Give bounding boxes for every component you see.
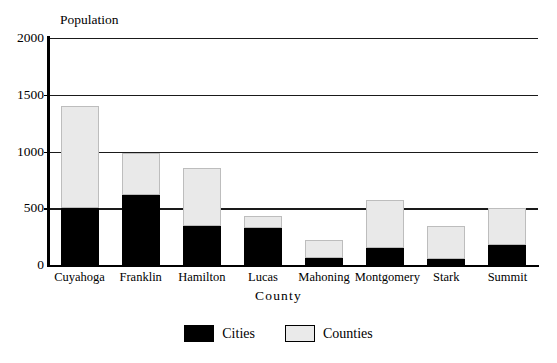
chart-legend: CitiesCounties: [0, 325, 557, 342]
bar-segment-cities[interactable]: [61, 208, 99, 265]
chart-title: [0, 0, 557, 2]
legend-label: Counties: [323, 326, 373, 342]
bar-group[interactable]: [427, 38, 465, 265]
x-axis-title: County: [0, 288, 557, 304]
y-axis-tick-label: 1000: [0, 145, 44, 158]
x-axis-tick-label: Montgomery: [355, 270, 416, 284]
legend-swatch-cities: [184, 325, 214, 342]
bar-segment-counties[interactable]: [488, 208, 526, 245]
y-axis-tick-label: 2000: [0, 31, 44, 44]
x-axis-tick-label: Stark: [416, 270, 477, 284]
bar-segment-cities[interactable]: [305, 258, 343, 265]
y-axis-title: Population: [60, 13, 119, 27]
bar-segment-counties[interactable]: [61, 106, 99, 208]
x-axis-tick-label: Cuyahoga: [49, 270, 110, 284]
y-axis-tick-label: 1500: [0, 88, 44, 101]
x-axis-tick-label: Summit: [477, 270, 538, 284]
legend-swatch-counties: [285, 325, 315, 342]
bar-group[interactable]: [488, 38, 526, 265]
plot-area: [49, 38, 538, 265]
bar-segment-cities[interactable]: [366, 248, 404, 265]
bar-group[interactable]: [366, 38, 404, 265]
bar-segment-counties[interactable]: [122, 153, 160, 194]
bar-segment-cities[interactable]: [244, 228, 282, 265]
x-axis-tick-label: Lucas: [232, 270, 293, 284]
x-axis-tick-label: Hamilton: [171, 270, 232, 284]
bar-segment-counties[interactable]: [183, 168, 221, 226]
bar-segment-cities[interactable]: [183, 226, 221, 265]
x-axis-tick-label: Mahoning: [294, 270, 355, 284]
legend-item[interactable]: Counties: [285, 325, 373, 342]
bar-group[interactable]: [244, 38, 282, 265]
bar-segment-counties[interactable]: [305, 240, 343, 258]
bar-segment-cities[interactable]: [427, 259, 465, 265]
y-axis-tick-label: 500: [0, 201, 44, 214]
bar-segment-cities[interactable]: [488, 245, 526, 265]
x-axis-tick-label: Franklin: [110, 270, 171, 284]
chart-figure: Population 0500100015002000 CuyahogaFran…: [0, 0, 557, 363]
bar-group[interactable]: [122, 38, 160, 265]
bar-segment-cities[interactable]: [122, 195, 160, 265]
bar-group[interactable]: [61, 38, 99, 265]
bar-segment-counties[interactable]: [244, 216, 282, 227]
legend-label: Cities: [222, 326, 255, 342]
bar-segment-counties[interactable]: [366, 200, 404, 248]
bar-group[interactable]: [305, 38, 343, 265]
legend-item[interactable]: Cities: [184, 325, 255, 342]
bar-group[interactable]: [183, 38, 221, 265]
bar-segment-counties[interactable]: [427, 226, 465, 258]
y-axis-tick-label: 0: [0, 258, 44, 271]
